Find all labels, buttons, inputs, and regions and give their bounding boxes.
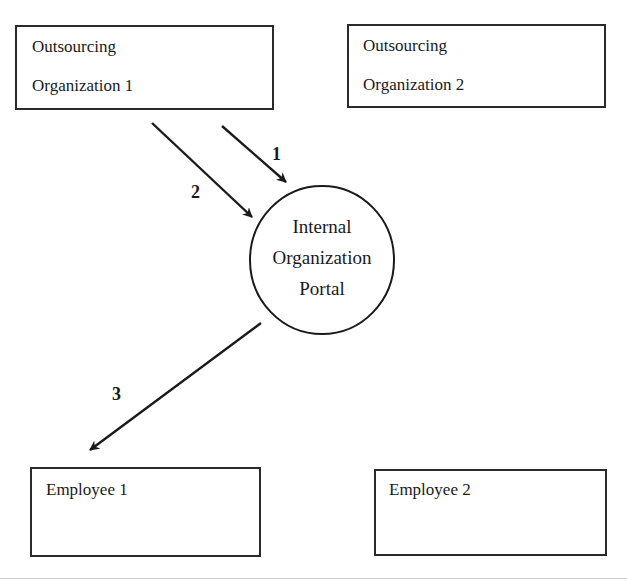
step-label-2: 2 <box>191 182 200 203</box>
step-label-1: 1 <box>272 144 281 165</box>
page-bottom-rule <box>0 578 627 579</box>
node-label-line-2: Organization 1 <box>32 76 133 96</box>
node-label: Employee 1 <box>46 480 128 500</box>
node-employee-2[interactable]: Employee 2 <box>374 469 607 556</box>
node-portal-label: Internal Organization Portal <box>250 211 394 304</box>
portal-label-line-1: Internal <box>250 211 394 242</box>
node-outsourcing-org-1[interactable]: Outsourcing Organization 1 <box>15 25 274 110</box>
portal-label-line-3: Portal <box>250 273 394 304</box>
arrow-2 <box>152 123 252 217</box>
node-label-line-1: Outsourcing <box>363 36 447 56</box>
node-outsourcing-org-2[interactable]: Outsourcing Organization 2 <box>347 24 606 108</box>
node-label: Employee 2 <box>389 480 471 500</box>
node-employee-1[interactable]: Employee 1 <box>30 467 261 557</box>
node-label-line-2: Organization 2 <box>363 75 464 95</box>
portal-label-line-2: Organization <box>250 242 394 273</box>
step-label-3: 3 <box>112 384 121 405</box>
node-label-line-1: Outsourcing <box>32 37 116 57</box>
